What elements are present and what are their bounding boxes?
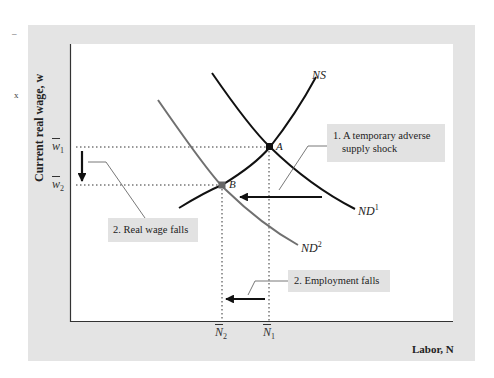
nd2-curve-label: ND2 bbox=[301, 240, 322, 256]
supply-shock-note-line2: supply shock bbox=[333, 142, 441, 155]
supply-shock-note-line1: 1. A temporary adverse bbox=[333, 129, 441, 142]
real-wage-note: 2. Real wage falls bbox=[108, 218, 198, 242]
supply-shock-note: 1. A temporary adverse supply shock bbox=[327, 124, 445, 162]
w2-tick-label: w2 bbox=[52, 177, 64, 193]
ns-curve bbox=[179, 77, 316, 208]
n1-tick-label: N1 bbox=[263, 325, 275, 341]
n2-tick-label: N2 bbox=[215, 325, 227, 341]
y-axis-label: Current real wage, w bbox=[32, 74, 47, 182]
diagram-svg bbox=[0, 0, 494, 378]
ns-curve-label: NS bbox=[312, 68, 326, 83]
nd1-curve-label: ND1 bbox=[358, 203, 379, 219]
employment-leader-line bbox=[248, 281, 288, 295]
point-a-marker bbox=[266, 143, 273, 150]
point-b-marker bbox=[219, 182, 226, 189]
shock-leader-line bbox=[279, 146, 327, 190]
point-a-label: A bbox=[276, 140, 283, 152]
wage-leader-line bbox=[88, 162, 145, 218]
x-axis-label: Labor, N bbox=[412, 343, 454, 355]
w1-tick-label: w1 bbox=[52, 139, 64, 155]
employment-note: 2. Employment falls bbox=[288, 270, 390, 292]
point-b-label: B bbox=[229, 178, 236, 190]
